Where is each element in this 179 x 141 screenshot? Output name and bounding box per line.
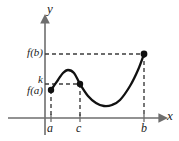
function-curve bbox=[51, 54, 144, 106]
y-value-label-fa: f(a) bbox=[27, 85, 43, 96]
figure-canvas bbox=[0, 0, 179, 141]
y-value-label-fb: f(b) bbox=[27, 47, 43, 58]
x-tick-label-a: a bbox=[47, 122, 53, 134]
x-tick-label-c: c bbox=[76, 122, 81, 134]
point-c bbox=[77, 81, 83, 87]
y-axis-label: y bbox=[47, 2, 53, 15]
ivt-figure: y x f(b) k f(a) a c b bbox=[0, 0, 179, 141]
point-a bbox=[48, 87, 54, 93]
x-axis-label: x bbox=[167, 109, 173, 122]
x-tick-label-b: b bbox=[141, 122, 147, 134]
point-b bbox=[141, 51, 148, 58]
